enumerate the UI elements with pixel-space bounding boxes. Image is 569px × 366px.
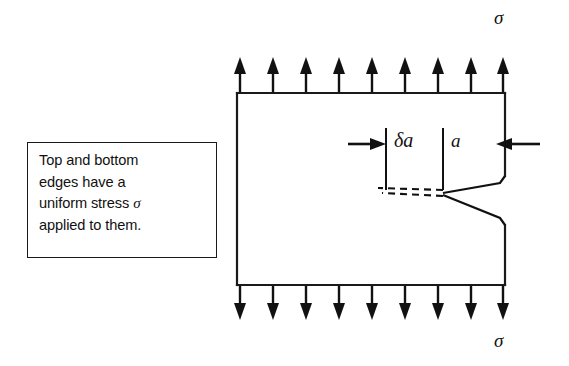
bottom-stress-arrows — [234, 286, 509, 320]
crack-flanks — [443, 176, 505, 225]
sigma-label-bottom: σ — [494, 330, 503, 352]
arrow-up — [399, 57, 411, 92]
arrow-down — [333, 286, 345, 320]
arrow-up — [465, 57, 477, 92]
arrow-down — [366, 286, 378, 320]
arrow-down — [432, 286, 444, 320]
note-line-1: Top and bottom — [39, 152, 138, 168]
top-stress-arrows — [234, 57, 509, 92]
arrow-down — [497, 286, 509, 320]
arrow-up — [234, 57, 246, 92]
annotation-note-box: Top and bottom edges have a uniform stre… — [27, 142, 217, 258]
arrow-up — [366, 57, 378, 92]
arrow-down — [234, 286, 246, 320]
crack-extension-dashed — [378, 188, 443, 196]
annotation-note-text: Top and bottom edges have a uniform stre… — [39, 150, 211, 236]
crack-dashed-upper — [378, 188, 443, 190]
arrow-up — [333, 57, 345, 92]
dimension-arrow-left — [496, 138, 540, 150]
delta-a-label: δa — [394, 129, 413, 152]
dimension-arrow-right — [348, 138, 386, 150]
note-line-4: applied to them. — [39, 217, 141, 233]
figure-canvas: σ σ δa a Top and bottom edges have a uni… — [0, 0, 569, 366]
arrow-up — [267, 57, 279, 92]
arrow-up — [497, 57, 509, 92]
sigma-label-top: σ — [494, 7, 503, 29]
note-line-2: edges have a — [39, 174, 125, 190]
crack-lower-flank — [443, 195, 505, 225]
arrow-up — [300, 57, 312, 92]
crack-upper-flank — [443, 176, 505, 193]
note-sigma-icon: σ — [133, 195, 140, 211]
crack-dashed-lower — [382, 193, 443, 196]
arrow-down — [267, 286, 279, 320]
crack-length-a-label: a — [451, 130, 461, 152]
arrow-up — [432, 57, 444, 92]
arrow-down — [300, 286, 312, 320]
arrow-down — [399, 286, 411, 320]
note-line-3-prefix: uniform stress — [39, 195, 133, 211]
arrow-down — [465, 286, 477, 320]
